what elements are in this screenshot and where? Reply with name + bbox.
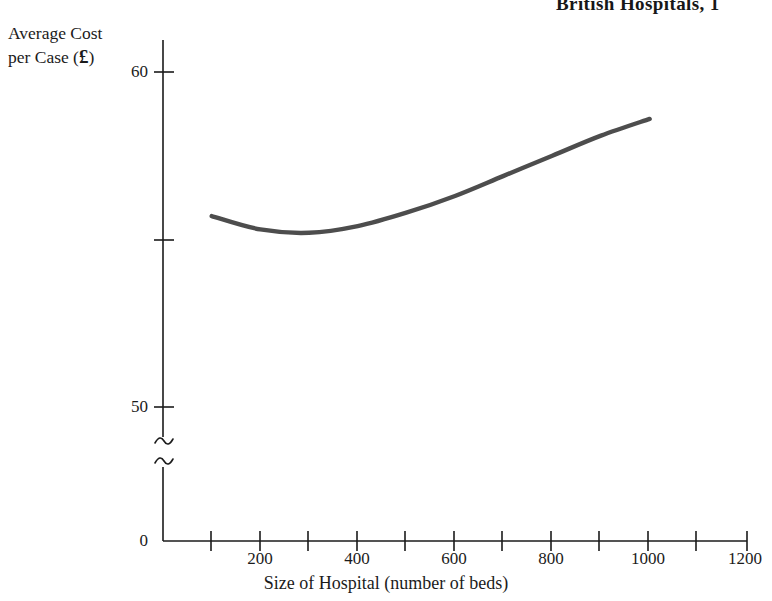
x-tick-label-600: 600 xyxy=(441,549,467,569)
x-tick-label-200: 200 xyxy=(247,549,273,569)
chart-figure: British Hospitals, 1 Average Cost per Ca… xyxy=(0,0,772,601)
y-tick-label-50: 50 xyxy=(110,397,148,417)
y-axis-break-squiggle-lower xyxy=(155,458,173,464)
y-axis-break-squiggle-upper xyxy=(155,438,173,444)
y-tick-label-0: 0 xyxy=(110,531,148,551)
y-tick-label-60: 60 xyxy=(110,62,148,82)
plot-area xyxy=(0,0,772,601)
x-tick-label-800: 800 xyxy=(538,549,564,569)
x-tick-label-400: 400 xyxy=(344,549,370,569)
x-axis-title: Size of Hospital (number of beds) xyxy=(0,573,772,594)
x-tick-label-1000: 1000 xyxy=(631,549,665,569)
cost-curve-line xyxy=(212,119,650,233)
x-tick-label-1200: 1200 xyxy=(728,549,762,569)
